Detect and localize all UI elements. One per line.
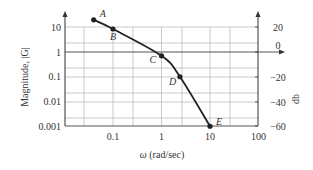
point-label-e: E	[215, 116, 222, 127]
arrow-up-icon	[256, 11, 261, 17]
y2-tick-label: 0	[276, 40, 281, 51]
data-point-e	[207, 124, 212, 129]
y-tick-label: 1	[56, 47, 61, 58]
data-point-a	[91, 17, 96, 22]
bode-magnitude-chart: 1010.10.010.001200−20−40−600.1110100ω (r…	[0, 0, 313, 170]
y2-tick-label: −60	[270, 121, 286, 132]
y-axis-label: Magnitude, |G|	[19, 47, 30, 107]
x-tick-label: 1	[159, 131, 164, 142]
y-tick-label: 0.1	[49, 71, 62, 82]
data-point-c	[159, 53, 164, 58]
x-axis-label: ω (rad/sec)	[140, 149, 185, 161]
x-tick-label: 100	[251, 131, 266, 142]
y-tick-label: 10	[51, 22, 61, 33]
data-point-d	[177, 74, 182, 79]
y-tick-label: 0.01	[44, 96, 62, 107]
x-tick-label: 10	[205, 131, 215, 142]
y2-tick-label: −20	[270, 72, 286, 83]
point-label-d: D	[168, 76, 177, 87]
x-tick-label: 0.1	[107, 131, 120, 142]
y2-tick-label: 20	[273, 22, 283, 33]
y2-tick-label: −40	[270, 97, 286, 108]
y2-axis-label: db	[290, 94, 301, 104]
y-tick-label: 0.001	[39, 121, 62, 132]
point-label-c: C	[150, 54, 157, 65]
point-label-a: A	[99, 8, 107, 19]
point-label-b: B	[110, 31, 116, 42]
arrow-up-icon	[63, 11, 68, 17]
